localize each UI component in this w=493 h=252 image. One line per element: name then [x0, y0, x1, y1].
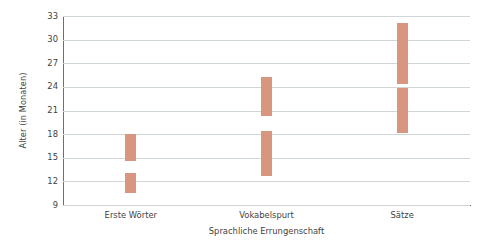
range-bar [125, 134, 136, 161]
gridline [63, 16, 470, 17]
x-axis-tick-label: Erste Wörter [71, 209, 191, 221]
range-bar [125, 173, 136, 193]
y-axis-tick-label: 9 [38, 201, 58, 210]
x-axis-title: Sprachliche Errungenschaft [63, 225, 470, 237]
y-axis-tick-label: 24 [38, 82, 58, 91]
x-axis-tick-label: Sätze [342, 209, 462, 221]
x-axis-tick-labels: Erste WörterVokabelspurtSätze [63, 209, 470, 223]
range-bar [261, 77, 272, 116]
y-axis-tick-label: 18 [38, 130, 58, 139]
y-axis-tick-label: 30 [38, 35, 58, 44]
y-axis-tick-label: 27 [38, 59, 58, 68]
range-bar [261, 131, 272, 176]
y-axis-tick-label: 12 [38, 177, 58, 186]
y-axis-tick-labels: 91215182124273033 [33, 16, 58, 205]
chart-container: Alter (in Monaten) 91215182124273033 Ers… [0, 0, 493, 252]
gridline [63, 205, 470, 206]
y-axis-title: Alter (in Monaten) [16, 16, 30, 205]
x-axis-tick-label: Vokabelspurt [207, 209, 327, 221]
range-bar [397, 23, 408, 84]
y-axis-tick-label: 33 [38, 12, 58, 21]
y-axis-tick-label: 21 [38, 106, 58, 115]
gridline [63, 181, 470, 182]
y-axis-tick-label: 15 [38, 153, 58, 162]
range-bar [397, 88, 408, 133]
plot-area [63, 16, 470, 205]
gridline [63, 40, 470, 41]
gridline [63, 63, 470, 64]
